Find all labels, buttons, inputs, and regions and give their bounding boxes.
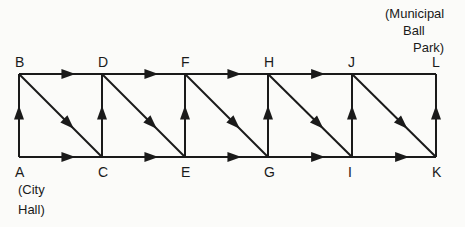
node-label-B: B: [15, 54, 24, 70]
arrowhead-F-H: [227, 69, 241, 79]
arrowhead-D-F: [144, 69, 158, 79]
node-label-L: L: [432, 54, 440, 70]
start-annotation-line-2: Hall): [18, 202, 45, 217]
arrowhead-A-B: [14, 106, 24, 120]
node-label-I: I: [348, 164, 352, 180]
arrowhead-G-H: [263, 106, 273, 120]
arrowhead-H-J: [311, 69, 325, 79]
arrowhead-B-D: [61, 69, 75, 79]
annotations-group: (City Hall) (Municipal Ball Park): [18, 6, 444, 217]
node-label-G: G: [264, 164, 275, 180]
edge-B-C: [19, 74, 102, 157]
edge-J-K: [352, 74, 436, 157]
node-label-D: D: [98, 54, 108, 70]
arrowhead-E-G: [227, 152, 241, 162]
node-label-A: A: [15, 164, 25, 180]
start-annotation-line-1: (City: [18, 182, 45, 197]
arrowhead-C-D: [97, 106, 107, 120]
node-label-K: K: [432, 164, 442, 180]
node-label-C: C: [98, 164, 108, 180]
end-annotation-line-2: Ball: [403, 23, 425, 38]
network-diagram: ABCDEFGHIJKL (City Hall) (Municipal Ball…: [0, 0, 465, 227]
arrowhead-I-J: [347, 106, 357, 120]
arrowhead-G-I: [311, 152, 325, 162]
arrowhead-A-C: [61, 152, 75, 162]
arrowhead-K-L: [431, 106, 441, 120]
arrowhead-E-F: [180, 106, 190, 120]
node-label-J: J: [348, 54, 355, 70]
arrowhead-I-K: [395, 152, 409, 162]
end-annotation-line-1: (Municipal: [385, 6, 444, 21]
node-label-E: E: [181, 164, 190, 180]
arrowhead-C-E: [144, 152, 158, 162]
end-annotation-line-3: Park): [413, 40, 444, 55]
edge-D-E: [102, 74, 185, 157]
edges-group: [14, 69, 441, 162]
edge-H-I: [268, 74, 352, 157]
node-label-H: H: [264, 54, 274, 70]
node-label-F: F: [181, 54, 190, 70]
edge-F-G: [185, 74, 268, 157]
